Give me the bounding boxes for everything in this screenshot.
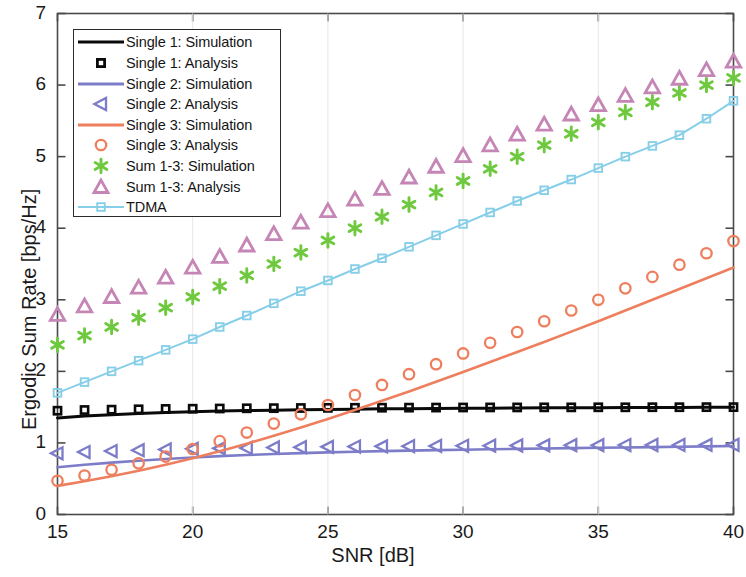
marker-triangle-left bbox=[619, 439, 631, 451]
marker-asterisk bbox=[133, 311, 145, 325]
legend-marker-line-square-icon bbox=[74, 197, 126, 217]
marker-square bbox=[81, 406, 88, 413]
marker-triangle-up bbox=[294, 215, 308, 228]
marker-triangle-up bbox=[348, 192, 362, 205]
marker-circle bbox=[377, 380, 387, 390]
marker-triangle-up bbox=[618, 89, 632, 102]
marker-triangle-left bbox=[700, 439, 712, 451]
marker-asterisk bbox=[268, 257, 280, 271]
marker-triangle-up bbox=[537, 117, 551, 130]
marker-circle bbox=[566, 305, 576, 315]
legend-item-5[interactable]: Single 3: Analysis bbox=[74, 135, 280, 156]
series-single-2-analysis bbox=[51, 439, 739, 460]
chart-legend: Single 1: SimulationSingle 1: AnalysisSi… bbox=[73, 29, 281, 217]
y-tick-label-2: 2 bbox=[12, 359, 46, 381]
marker-triangle-up bbox=[267, 227, 281, 240]
figure-canvas: SNR [dB] Ergodic Sum Rate [bps/Hz] 01234… bbox=[0, 0, 746, 577]
marker-circle bbox=[431, 359, 441, 369]
marker-triangle-up bbox=[510, 127, 524, 140]
marker-asterisk bbox=[376, 210, 388, 224]
marker-circle bbox=[620, 283, 630, 293]
marker-square bbox=[270, 405, 277, 412]
marker-asterisk bbox=[619, 105, 631, 119]
legend-item-4[interactable]: Single 3: Simulation bbox=[74, 114, 280, 135]
marker-square bbox=[216, 405, 223, 412]
legend-item-7[interactable]: Sum 1-3: Analysis bbox=[74, 176, 280, 197]
marker-asterisk bbox=[457, 174, 469, 188]
marker-asterisk bbox=[484, 162, 496, 176]
marker-triangle-up bbox=[77, 299, 91, 312]
series-single-1-simulation bbox=[58, 407, 734, 418]
marker-circle bbox=[242, 427, 252, 437]
marker-circle bbox=[485, 338, 495, 348]
marker-square bbox=[135, 406, 142, 413]
legend-label-2: Single 2: Simulation bbox=[126, 76, 252, 92]
marker-asterisk bbox=[403, 198, 415, 212]
marker-triangle-left bbox=[673, 439, 685, 451]
x-axis-label: SNR [dB] bbox=[0, 544, 746, 567]
y-tick-label-3: 3 bbox=[12, 288, 46, 310]
legend-marker-line-icon bbox=[74, 74, 126, 94]
x-tick-label-30: 30 bbox=[433, 521, 493, 543]
marker-circle bbox=[79, 470, 89, 480]
legend-item-8[interactable]: TDMA bbox=[74, 197, 280, 218]
marker-asterisk bbox=[592, 115, 604, 129]
marker-triangle-up bbox=[402, 170, 416, 183]
marker-triangle-left bbox=[592, 439, 604, 451]
marker-triangle-up bbox=[564, 107, 578, 120]
legend-label-4: Single 3: Simulation bbox=[126, 117, 252, 133]
marker-asterisk bbox=[322, 234, 334, 248]
marker-asterisk bbox=[52, 338, 64, 352]
legend-label-0: Single 1: Simulation bbox=[126, 34, 252, 50]
marker-asterisk bbox=[701, 78, 713, 92]
legend-marker-triangle-left-icon bbox=[74, 94, 126, 114]
marker-asterisk bbox=[349, 221, 361, 235]
marker-triangle-up bbox=[483, 138, 497, 151]
marker-circle bbox=[404, 369, 414, 379]
marker-triangle-up bbox=[672, 71, 686, 84]
marker-asterisk bbox=[646, 95, 658, 109]
marker-asterisk bbox=[241, 269, 253, 283]
marker-triangle-left bbox=[646, 439, 658, 451]
marker-asterisk bbox=[295, 246, 307, 260]
marker-circle bbox=[701, 248, 711, 258]
marker-asterisk bbox=[674, 86, 686, 100]
legend-item-2[interactable]: Single 2: Simulation bbox=[74, 73, 280, 94]
marker-circle bbox=[674, 260, 684, 270]
series-single-3-simulation bbox=[58, 268, 734, 486]
y-tick-label-6: 6 bbox=[12, 73, 46, 95]
y-tick-label-5: 5 bbox=[12, 145, 46, 167]
marker-triangle-left bbox=[294, 441, 306, 453]
legend-item-1[interactable]: Single 1: Analysis bbox=[74, 53, 280, 74]
series-line bbox=[58, 407, 734, 418]
marker-triangle-up bbox=[645, 80, 659, 93]
series-line bbox=[58, 268, 734, 486]
x-tick-label-15: 15 bbox=[28, 521, 88, 543]
marker-triangle-left bbox=[267, 442, 279, 454]
marker-triangle-up bbox=[240, 238, 254, 251]
marker-triangle-up bbox=[158, 270, 172, 283]
legend-marker-asterisk-icon bbox=[74, 156, 126, 176]
marker-asterisk bbox=[187, 290, 199, 304]
marker-circle bbox=[106, 465, 116, 475]
marker-asterisk bbox=[106, 320, 118, 334]
legend-item-0[interactable]: Single 1: Simulation bbox=[74, 32, 280, 53]
marker-asterisk bbox=[160, 301, 172, 315]
marker-circle bbox=[512, 327, 522, 337]
marker-circle bbox=[647, 272, 657, 282]
legend-marker-triangle-up-icon bbox=[74, 177, 126, 197]
legend-label-1: Single 1: Analysis bbox=[126, 55, 238, 71]
marker-triangle-left bbox=[321, 441, 333, 453]
marker-triangle-up bbox=[213, 250, 227, 263]
y-tick-label-1: 1 bbox=[12, 431, 46, 453]
legend-label-7: Sum 1-3: Analysis bbox=[126, 179, 240, 195]
marker-triangle-left bbox=[105, 445, 117, 457]
marker-triangle-up bbox=[429, 159, 443, 172]
legend-item-6[interactable]: Sum 1-3: Simulation bbox=[74, 156, 280, 177]
marker-triangle-up bbox=[131, 280, 145, 293]
legend-item-3[interactable]: Single 2: Analysis bbox=[74, 94, 280, 115]
legend-label-8: TDMA bbox=[126, 199, 167, 215]
x-tick-label-25: 25 bbox=[298, 521, 358, 543]
marker-asterisk bbox=[430, 186, 442, 200]
marker-circle bbox=[350, 390, 360, 400]
